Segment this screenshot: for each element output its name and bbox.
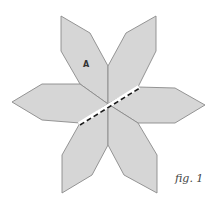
- star-figure: A: [0, 0, 218, 199]
- marker-label: A: [83, 60, 90, 69]
- figure-caption: fig. 1: [175, 172, 203, 185]
